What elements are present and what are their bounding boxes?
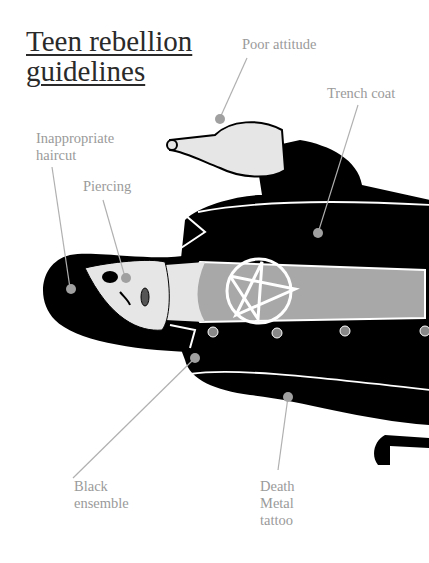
- label-trench-coat: Trench coat: [327, 85, 395, 102]
- label-death-metal-tattoo: Death Metal tattoo: [260, 478, 295, 529]
- hand-shape: [170, 122, 285, 176]
- label-black-ensemble: Black ensemble: [74, 478, 129, 512]
- label-poor-attitude: Poor attitude: [242, 36, 317, 53]
- label-inappropriate-haircut: Inappropriate haircut: [36, 130, 114, 164]
- label-piercing: Piercing: [83, 178, 131, 195]
